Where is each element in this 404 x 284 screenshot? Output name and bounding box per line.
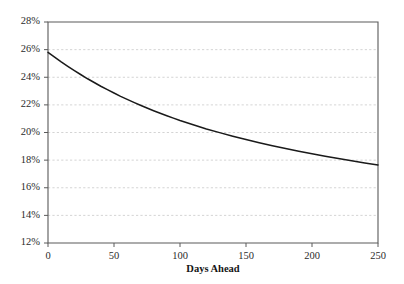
y-tick-label: 18% <box>21 154 41 165</box>
chart-container: 12%14%16%18%20%22%24%26%28% 050100150200… <box>0 0 404 284</box>
y-tick-label: 12% <box>21 236 41 247</box>
x-tick-label: 150 <box>238 250 254 261</box>
x-tick-label: 200 <box>304 250 320 261</box>
y-axis-tick-labels: 12%14%16%18%20%22%24%26%28% <box>21 15 41 247</box>
y-tick-label: 28% <box>21 15 41 26</box>
y-tick-label: 20% <box>21 126 41 137</box>
chart-background <box>0 0 404 284</box>
y-tick-label: 14% <box>21 209 41 220</box>
y-tick-label: 16% <box>21 181 41 192</box>
line-chart: 12%14%16%18%20%22%24%26%28% 050100150200… <box>0 0 404 284</box>
x-tick-label: 250 <box>370 250 386 261</box>
x-tick-label: 0 <box>45 250 50 261</box>
x-tick-label: 100 <box>172 250 188 261</box>
y-tick-label: 26% <box>21 43 41 54</box>
x-tick-label: 50 <box>109 250 120 261</box>
x-axis-title: Days Ahead <box>186 263 240 274</box>
y-tick-label: 24% <box>21 71 41 82</box>
y-tick-label: 22% <box>21 98 41 109</box>
